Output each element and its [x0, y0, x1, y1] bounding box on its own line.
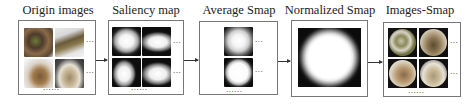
masked-food-circle [389, 60, 416, 87]
arrow-normalized-to-images-smap [368, 62, 382, 63]
stage-box-average-smap: ... ... ...... [199, 21, 278, 95]
saliency-map-2 [142, 27, 171, 56]
masked-image-1 [388, 28, 417, 57]
arrow-saliency-to-average [184, 60, 198, 61]
food-photo-2 [55, 28, 84, 57]
stage-title-saliency-map: Saliency map [106, 3, 186, 18]
ellipsis-row-1: ... [255, 34, 263, 44]
arrow-average-to-normalized [278, 61, 290, 62]
saliency-map-1 [112, 27, 141, 56]
masked-image-4 [419, 59, 448, 88]
stage-box-saliency-map: ... ... ...... [108, 20, 184, 95]
masked-image-3 [388, 59, 417, 88]
stage-box-normalized-smap [291, 20, 368, 97]
ellipsis-row-2: ... [255, 64, 263, 74]
ellipsis-row-2: ... [173, 65, 181, 75]
stage-title-average-smap: Average Smap [198, 3, 280, 18]
ellipsis-row-1: ... [173, 35, 181, 45]
arrow-origin-to-saliency [96, 60, 107, 61]
masked-food-circle [420, 60, 447, 87]
ellipsis-row-1: ... [450, 35, 458, 45]
stage-box-images-smap: ... ... ...... [383, 22, 461, 97]
stage-title-normalized-smap: Normalized Smap [284, 3, 376, 18]
stage-box-origin-images: ... ... ...... [18, 20, 96, 95]
ellipsis-row-2: ... [450, 66, 458, 76]
ellipsis-bottom: ...... [131, 82, 148, 92]
average-smap-1 [224, 27, 253, 56]
stage-title-origin-images: Origin images [18, 3, 98, 18]
masked-food-circle [389, 29, 416, 56]
ellipsis-bottom: ...... [43, 82, 60, 92]
masked-image-2 [419, 28, 448, 57]
ellipsis-row-2: ... [86, 65, 94, 75]
average-smap-2 [224, 58, 253, 87]
ellipsis-bottom: ...... [226, 84, 243, 94]
food-photo-1 [24, 28, 53, 57]
stage-title-images-smap: Images-Smap [380, 3, 460, 18]
normalized-smap-image [298, 28, 361, 87]
masked-food-circle [420, 29, 447, 56]
ellipsis-row-1: ... [86, 34, 94, 44]
ellipsis-bottom: ...... [408, 85, 425, 95]
